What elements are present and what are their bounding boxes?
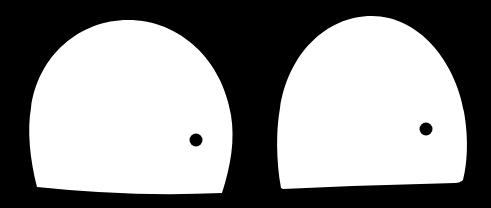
right-dome-dot — [420, 123, 433, 136]
left-dome-dot — [190, 134, 203, 147]
scene-canvas — [0, 0, 491, 208]
